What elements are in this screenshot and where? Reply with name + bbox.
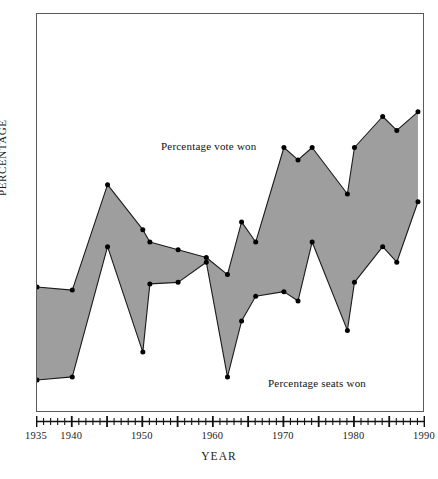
x-tick-1980: 1980 (343, 430, 365, 441)
data-point-vote-1964 (239, 219, 244, 224)
data-point-seats-1959 (204, 260, 209, 265)
x-tick-1950: 1950 (131, 430, 153, 441)
data-point-vote-1950 (140, 227, 145, 232)
data-point-seats-1945 (105, 244, 110, 249)
x-tick-1960: 1960 (201, 430, 223, 441)
data-point-vote-1945 (105, 182, 110, 187)
x-tick-1990: 1990 (413, 430, 435, 441)
data-point-seats-1989 (415, 199, 420, 204)
data-point-vote-1980 (352, 145, 357, 150)
data-point-vote-1955 (176, 247, 181, 252)
data-point-vote-1970 (281, 145, 286, 150)
data-point-seats-1972 (296, 298, 301, 303)
data-point-vote-1979 (345, 192, 350, 197)
x-tick-1940: 1940 (60, 430, 82, 441)
data-point-vote-1959 (204, 255, 209, 260)
data-point-seats-1950 (140, 350, 145, 355)
data-point-seats-1951 (147, 281, 152, 286)
data-point-vote-1940 (70, 288, 75, 293)
chart-container: 25%20%15%10%5% PERCENTAGE Percentage vot… (0, 0, 438, 479)
data-point-seats-1974 (310, 240, 315, 245)
data-point-seats-1980 (352, 280, 357, 285)
x-tick-1970: 1970 (272, 430, 294, 441)
data-point-seats-1979 (345, 328, 350, 333)
data-point-vote-1986 (394, 128, 399, 133)
data-point-vote-1962 (225, 272, 230, 277)
data-point-vote-1966 (253, 240, 258, 245)
data-point-seats-1964 (239, 319, 244, 324)
data-point-vote-1951 (147, 240, 152, 245)
data-point-seats-1986 (394, 260, 399, 265)
data-point-seats-1955 (176, 280, 181, 285)
area-band-fill (37, 112, 418, 380)
plot-area: Percentage vote won Percentage seats won (36, 13, 424, 412)
data-point-seats-1984 (380, 244, 385, 249)
data-point-seats-1962 (225, 374, 230, 379)
data-point-seats-1940 (70, 374, 75, 379)
vote-series-annotation: Percentage vote won (161, 140, 256, 152)
x-axis-ruler (36, 416, 425, 428)
seats-series-annotation: Percentage seats won (268, 377, 366, 389)
x-tick-1935: 1935 (25, 430, 47, 441)
data-point-vote-1974 (310, 145, 315, 150)
data-point-vote-1984 (380, 114, 385, 119)
data-point-vote-1972 (296, 157, 301, 162)
data-point-seats-1966 (253, 294, 258, 299)
chart-svg (37, 14, 425, 413)
data-point-vote-1989 (415, 109, 420, 114)
x-axis-title: YEAR (0, 450, 438, 462)
y-axis-title: PERCENTAGE (0, 119, 8, 196)
data-point-seats-1970 (281, 289, 286, 294)
